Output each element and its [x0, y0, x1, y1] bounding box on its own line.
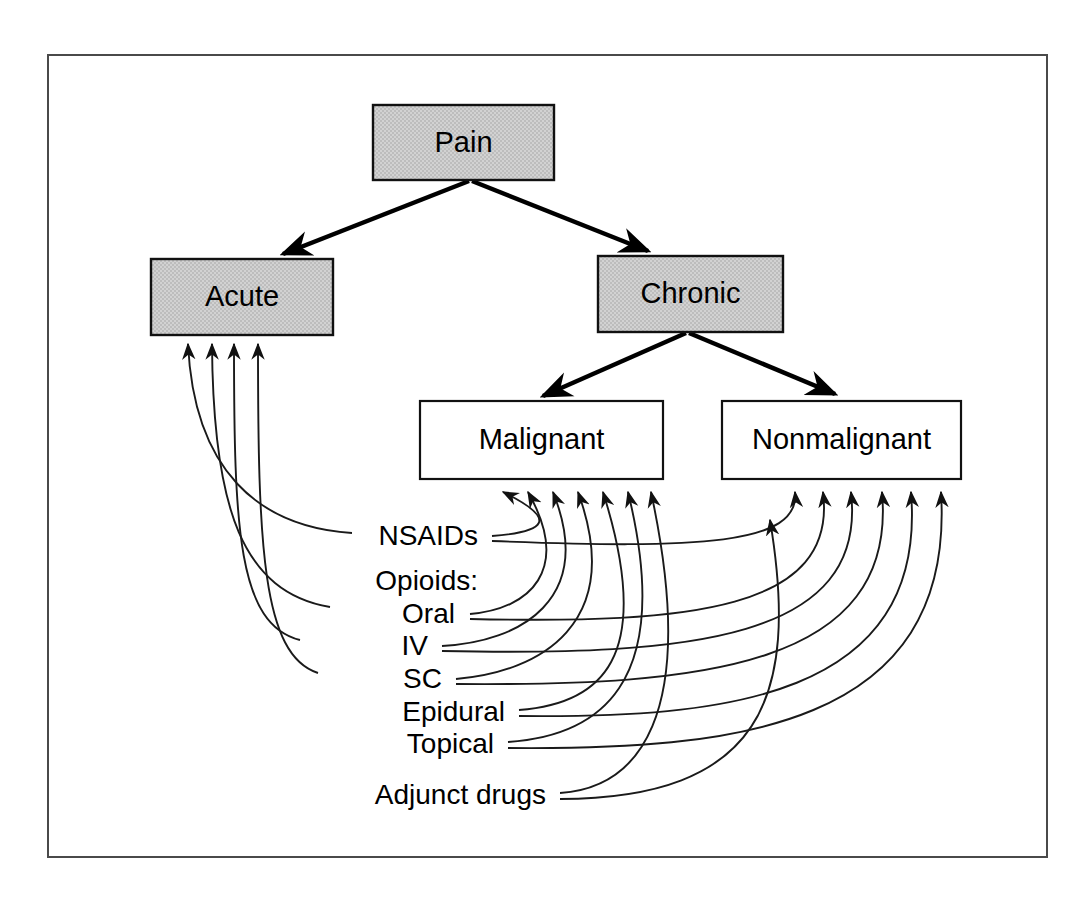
- edge-chronic-to-nonmalignant: [689, 333, 835, 394]
- node-acute-label: Acute: [205, 280, 279, 312]
- connector-oral-malignant: [470, 492, 546, 614]
- node-malignant-label: Malignant: [479, 423, 605, 455]
- treatment-label-nsaids[interactable]: NSAIDs: [378, 520, 478, 551]
- treatment-label-epidural[interactable]: Epidural: [402, 696, 505, 727]
- treatment-label-iv[interactable]: IV: [402, 630, 429, 661]
- connector-sc-nonmalignant: [456, 492, 883, 684]
- node-malignant[interactable]: Malignant: [420, 401, 663, 479]
- treatment-label-sc[interactable]: SC: [403, 663, 442, 694]
- node-chronic[interactable]: Chronic: [598, 256, 783, 332]
- edge-pain-to-acute: [283, 181, 469, 254]
- pain-management-flowchart: Pain Acute Chronic Malignant Nonmalignan…: [0, 0, 1091, 909]
- node-chronic-label: Chronic: [641, 277, 741, 309]
- node-pain-label: Pain: [434, 126, 492, 158]
- treatment-label-oral[interactable]: Oral: [402, 598, 455, 629]
- treatment-label-topical[interactable]: Topical: [407, 728, 494, 759]
- treatment-label-group: NSAIDs Opioids: Oral IV SC Epidural Topi…: [375, 520, 546, 810]
- node-nonmalignant[interactable]: Nonmalignant: [722, 401, 961, 479]
- node-nonmalignant-label: Nonmalignant: [752, 423, 931, 455]
- edge-chronic-to-malignant: [543, 333, 686, 396]
- connector-nsaids-nonmalignant: [492, 492, 795, 544]
- connector-oral-nonmalignant: [470, 492, 824, 620]
- connector-iv-nonmalignant: [442, 492, 852, 652]
- connector-epidural-malignant: [519, 492, 624, 710]
- treatment-label-adjunct-drugs[interactable]: Adjunct drugs: [375, 779, 546, 810]
- edge-pain-to-chronic: [472, 181, 648, 251]
- node-acute[interactable]: Acute: [151, 259, 333, 335]
- node-pain[interactable]: Pain: [373, 105, 554, 180]
- treatment-label-opioids: Opioids:: [375, 565, 478, 596]
- connector-iv-acute: [234, 344, 300, 640]
- figure-root: Pain Acute Chronic Malignant Nonmalignan…: [0, 0, 1091, 909]
